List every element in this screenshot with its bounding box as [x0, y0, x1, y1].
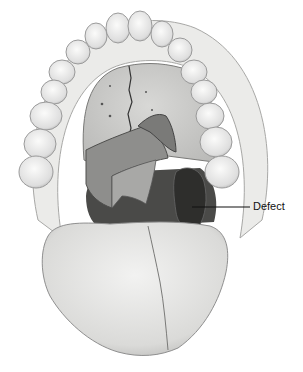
oral-anatomy-illustration: Defect	[0, 0, 303, 372]
defect-label: Defect	[253, 201, 285, 212]
defect-opening	[174, 168, 206, 229]
tongue	[42, 222, 228, 355]
